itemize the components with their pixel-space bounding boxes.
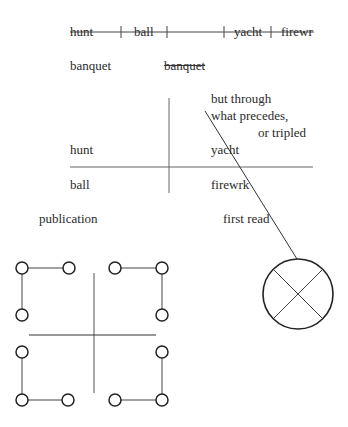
- node-circle: [156, 394, 168, 406]
- node-circle: [16, 394, 28, 406]
- banquet-struck-label: banquet: [164, 58, 205, 73]
- top-word-ball: ball: [134, 24, 154, 39]
- note-line-3: or tripled: [258, 125, 306, 140]
- node-circle: [16, 262, 28, 274]
- grid-top-left: hunt: [70, 142, 93, 157]
- crossed-circle-icon: [263, 259, 333, 329]
- node-circle: [109, 262, 121, 274]
- node-circle: [156, 346, 168, 358]
- node-circle: [109, 394, 121, 406]
- top-word-yacht: yacht: [234, 24, 262, 39]
- grid-bottom-right: firewrk: [211, 177, 249, 192]
- banquet-label: banquet: [70, 58, 111, 73]
- first-read-label: first read: [223, 211, 270, 226]
- publication-label: publication: [39, 211, 98, 226]
- top-word-hunt: hunt: [70, 24, 93, 39]
- node-circle: [156, 309, 168, 321]
- node-circles: [16, 262, 168, 406]
- grid-top-right: yacht: [211, 142, 239, 157]
- top-word-firewr: firewr: [281, 24, 313, 39]
- note-line-1: but through: [211, 91, 271, 106]
- node-connectors: [22, 268, 162, 400]
- node-circle: [16, 309, 28, 321]
- note-line-2: what precedes,: [211, 108, 288, 123]
- node-circle: [63, 262, 75, 274]
- node-circle: [62, 394, 74, 406]
- node-circle: [156, 262, 168, 274]
- node-circle: [16, 346, 28, 358]
- grid-bottom-left: ball: [70, 177, 90, 192]
